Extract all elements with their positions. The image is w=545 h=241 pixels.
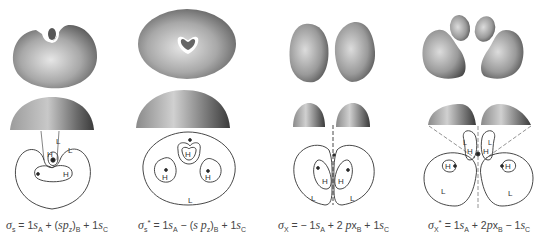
label-high: H	[483, 147, 489, 156]
label-high: H	[445, 162, 451, 171]
label-high: H	[162, 173, 168, 182]
contour-diagram	[143, 132, 235, 205]
orbital-subscript: X	[284, 226, 289, 233]
label-low: L	[441, 187, 446, 196]
panel-sigma-s: L H L H	[10, 25, 97, 209]
inner-lobe	[48, 28, 56, 40]
label-low: L	[508, 189, 513, 198]
panel-sigma-s-star: H H H L	[136, 9, 236, 205]
orbital-section-dome	[136, 90, 230, 128]
panel-sigma-x: H H L L	[290, 22, 376, 205]
formula-sigma-s: σs = 1sA + (spz)B + 1sC	[6, 218, 108, 233]
orbital-surface-3d	[290, 24, 329, 83]
orbital-section-dome	[293, 103, 325, 127]
label-low: L	[188, 196, 193, 205]
label-high: H	[467, 147, 473, 156]
orbital-subscript: s	[12, 226, 16, 233]
label-low: L	[350, 194, 355, 203]
orbital-subscript: X	[434, 226, 439, 233]
formula-sigma-x: σX = − 1sA + 2 pxB + 1sC	[278, 218, 389, 233]
orbital-section-dome	[10, 97, 94, 130]
orbital-superscript: *	[439, 218, 442, 227]
label-low: L	[56, 137, 61, 146]
label-low: L	[311, 194, 316, 203]
label-low: L	[488, 139, 492, 146]
orbital-surface-3d	[335, 22, 375, 82]
orbital-section-dome	[481, 104, 531, 125]
label-low: L	[463, 139, 467, 146]
orbital-section-dome	[336, 103, 370, 127]
label-low: L	[68, 146, 73, 155]
label-high: H	[505, 162, 511, 171]
label-high: H	[63, 170, 69, 179]
contour-diagram	[294, 125, 374, 205]
label-high: H	[205, 173, 211, 182]
formula-sigma-x-star: σX* = 1sA + 2pxB − 1sC	[428, 218, 530, 233]
label-high: H	[322, 177, 328, 186]
orbital-superscript: *	[147, 218, 150, 227]
orbital-subscript: s	[144, 226, 148, 233]
label-high: H	[338, 177, 344, 186]
contour-diagram	[15, 131, 90, 209]
formula-sigma-s-star: σs* = 1sA − (s pz)B + 1sC	[138, 218, 246, 233]
panel-sigma-x-star: L H L H H H L L	[423, 13, 533, 208]
orbital-section-dome	[428, 104, 476, 125]
label-high: H	[185, 150, 191, 159]
label-high: H	[47, 150, 53, 159]
orbital-figure: L H L H H H H L	[0, 0, 545, 241]
